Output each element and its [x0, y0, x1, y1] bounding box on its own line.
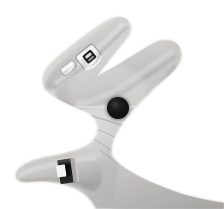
hand-photograph — [0, 0, 224, 209]
palm-mark — [105, 95, 130, 120]
photo-canvas: Palm of a hand with a dark round mole on… — [0, 0, 224, 209]
